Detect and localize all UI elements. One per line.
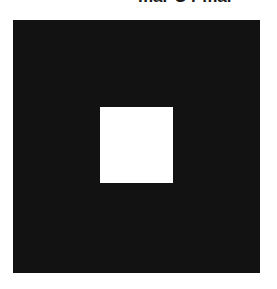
outer-black-square bbox=[13, 20, 260, 273]
inner-white-square bbox=[100, 107, 173, 183]
clipped-caption-text: mar C r mal bbox=[138, 0, 268, 6]
